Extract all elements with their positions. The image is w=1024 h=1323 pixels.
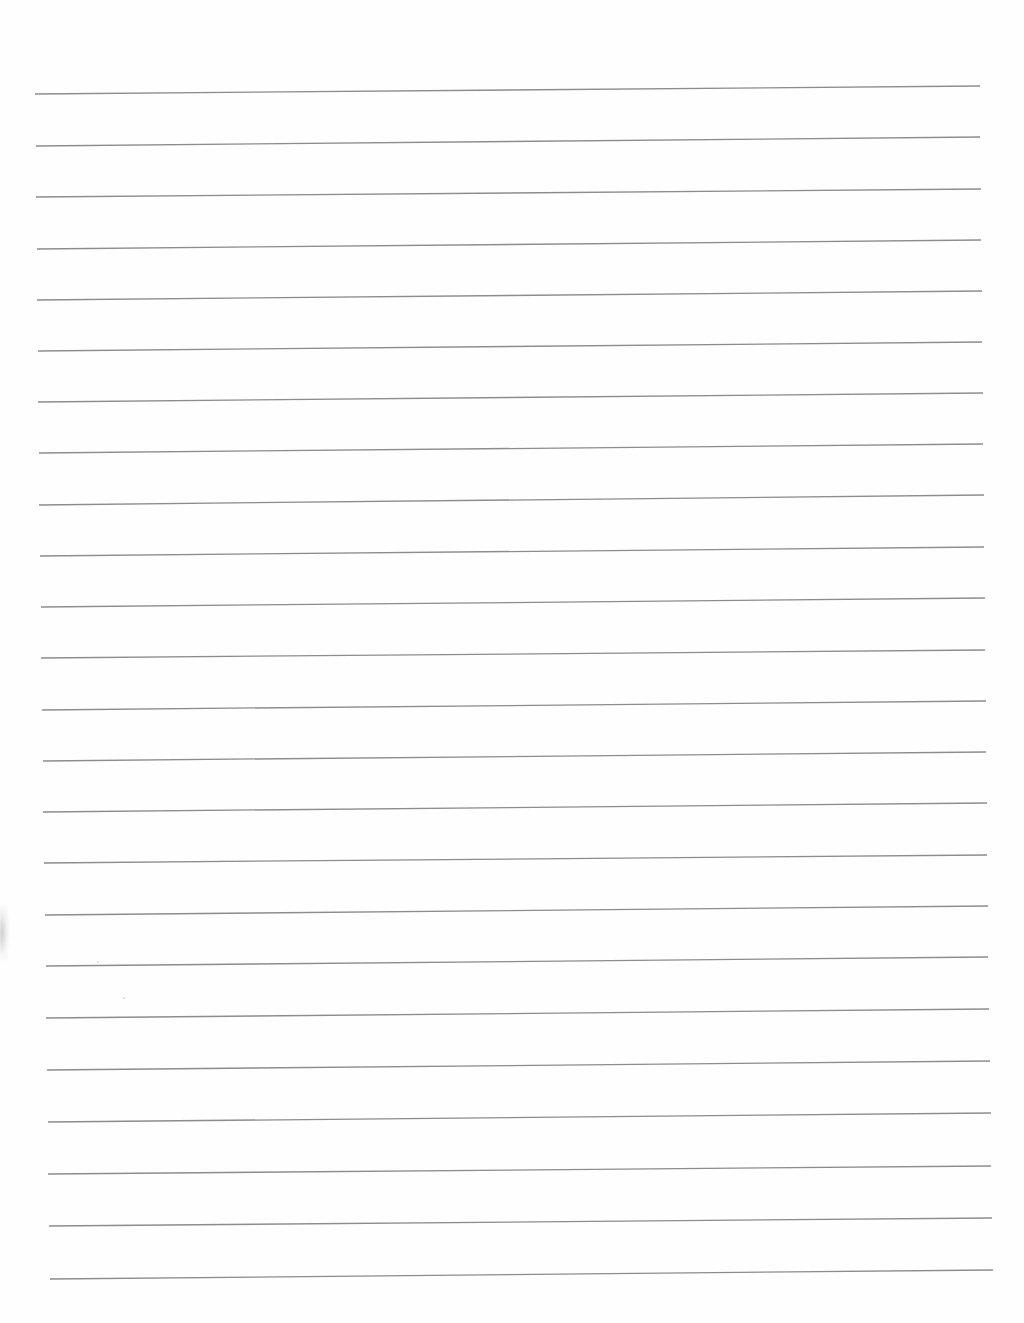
ruled-line-13 bbox=[42, 701, 986, 710]
ruled-line-14 bbox=[43, 752, 986, 761]
ruled-lines bbox=[0, 0, 1024, 1323]
ruled-line-21 bbox=[48, 1113, 991, 1122]
ruled-line-3 bbox=[36, 189, 981, 197]
ruled-line-22 bbox=[48, 1166, 991, 1174]
lined-paper-page bbox=[0, 0, 1024, 1323]
scan-speck bbox=[123, 997, 125, 999]
ruled-line-19 bbox=[46, 1009, 989, 1018]
scan-speck bbox=[97, 961, 99, 963]
ruled-line-2 bbox=[36, 137, 980, 146]
ruled-line-1 bbox=[35, 86, 980, 94]
ruled-line-17 bbox=[45, 906, 988, 915]
ruled-line-9 bbox=[39, 495, 984, 505]
ruled-line-24 bbox=[50, 1270, 993, 1279]
ruled-line-20 bbox=[47, 1061, 990, 1070]
ruled-line-16 bbox=[44, 855, 987, 863]
ruled-line-18 bbox=[46, 957, 988, 966]
ruled-line-15 bbox=[43, 803, 987, 812]
ruled-line-4 bbox=[37, 240, 981, 249]
ruled-line-6 bbox=[38, 342, 982, 351]
ruled-line-8 bbox=[39, 444, 983, 453]
ruled-line-5 bbox=[37, 291, 982, 300]
ruled-line-23 bbox=[49, 1218, 992, 1226]
scan-smudge bbox=[0, 905, 9, 960]
ruled-line-11 bbox=[41, 598, 985, 607]
ruled-line-10 bbox=[40, 547, 984, 556]
ruled-line-12 bbox=[41, 650, 985, 658]
ruled-line-7 bbox=[38, 393, 983, 402]
